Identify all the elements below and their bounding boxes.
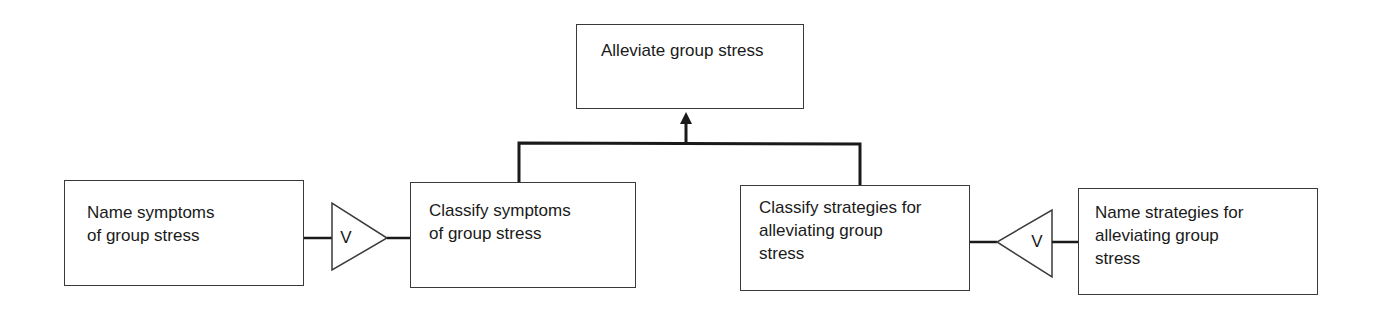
node-label-line: stress: [1095, 247, 1317, 270]
or-left-label: V: [336, 228, 356, 248]
merge-bracket: [519, 143, 860, 186]
node-label-line: of group stress: [429, 222, 635, 245]
up-arrow-icon: [680, 112, 692, 124]
node-label-line: Classify strategies for: [759, 196, 969, 219]
classify-symptoms-box: Classify symptoms of group stress: [410, 182, 636, 288]
name-symptoms-box: Name symptoms of group stress: [64, 180, 304, 286]
node-label-line: alleviating group: [1095, 224, 1317, 247]
node-label-line: Name strategies for: [1095, 201, 1317, 224]
classify-strategies-box: Classify strategies for alleviating grou…: [740, 185, 970, 291]
node-label-line: alleviating group: [759, 219, 969, 242]
or-right-label: V: [1027, 232, 1047, 252]
node-label-line: of group stress: [87, 224, 303, 247]
goal-label: Alleviate group stress: [601, 39, 803, 62]
name-strategies-box: Name strategies for alleviating group st…: [1078, 188, 1318, 295]
node-label-line: Classify symptoms: [429, 199, 635, 222]
goal-box: Alleviate group stress: [576, 24, 804, 109]
node-label-line: stress: [759, 242, 969, 265]
node-label-line: Name symptoms: [87, 201, 303, 224]
